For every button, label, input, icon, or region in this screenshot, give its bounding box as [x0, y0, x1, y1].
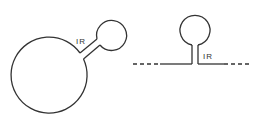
stem-line-lower: [84, 45, 101, 59]
ir-label-right: IR: [203, 52, 213, 61]
ir-label-left: IR: [76, 37, 86, 46]
large-circle: [11, 37, 87, 113]
circular-molecule-figure: [11, 20, 127, 113]
linear-molecule-figure: [133, 15, 252, 64]
hairpin-loop: [180, 15, 210, 45]
diagram-canvas: IR IR: [0, 0, 265, 128]
small-loop-circle: [97, 20, 127, 50]
